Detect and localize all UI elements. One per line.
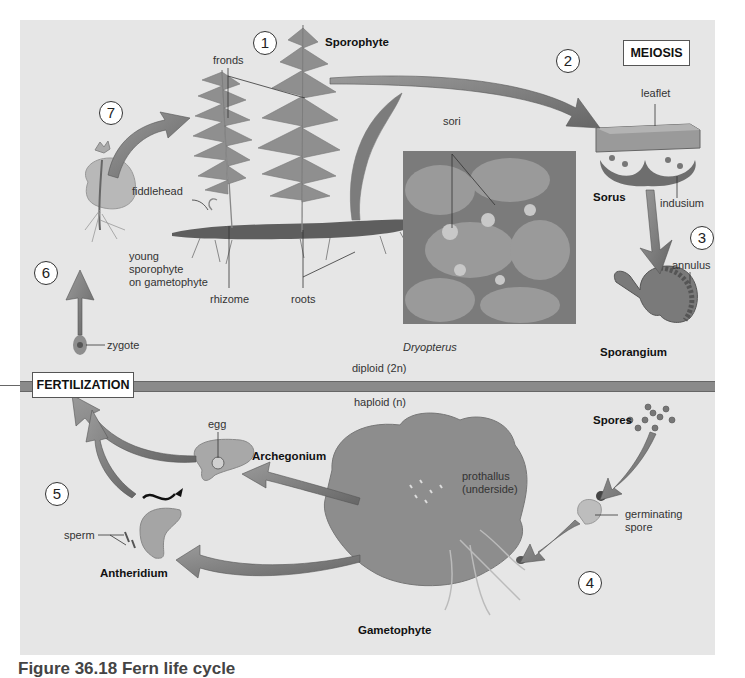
- sporophyte-title: Sporophyte: [325, 36, 389, 49]
- rhizome-illustration: [172, 219, 420, 264]
- zygote-label: zygote: [107, 339, 139, 352]
- sporangium-illustration: [614, 266, 697, 322]
- young-sporophyte-illustration: [85, 141, 136, 242]
- figure-caption: Figure 36.18 Fern life cycle: [18, 660, 235, 677]
- step-7-marker: 7: [99, 101, 123, 125]
- fiddlehead-label: fiddlehead: [132, 185, 183, 198]
- fertilization-box: FERTILIZATION: [32, 372, 134, 398]
- annulus-label: annulus: [672, 259, 711, 272]
- step-3-marker: 3: [690, 226, 714, 250]
- ploidy-divider-edge: [0, 385, 20, 386]
- gametophyte-title: Gametophyte: [358, 624, 432, 637]
- egg-label: egg: [208, 418, 226, 431]
- leaflet-label: leaflet: [641, 87, 670, 100]
- antheridium-illustration: [125, 488, 183, 558]
- spores-illustration: [627, 404, 675, 431]
- haploid-label: haploid (n): [354, 396, 406, 409]
- sorus-title: Sorus: [593, 191, 626, 204]
- step-5-marker: 5: [45, 482, 69, 506]
- dryopterus-label: Dryopterus: [403, 341, 457, 354]
- step-4-marker: 4: [578, 571, 602, 595]
- step-6-marker: 6: [34, 261, 58, 285]
- germinating-spore-label: germinating spore: [625, 508, 682, 534]
- indusium-label: indusium: [660, 197, 704, 210]
- rhizome-label: rhizome: [210, 293, 249, 306]
- prothallus-label: prothallus (underside): [462, 470, 518, 496]
- sporangium-title: Sporangium: [600, 346, 667, 359]
- step-1-marker: 1: [253, 31, 277, 55]
- meiosis-box: MEIOSIS: [623, 40, 690, 66]
- antheridium-title: Antheridium: [100, 567, 168, 580]
- fronds-label: fronds: [213, 54, 244, 67]
- prothallus-illustration: [324, 413, 527, 615]
- young-sporophyte-label: young sporophyte on gametophyte: [129, 250, 208, 289]
- archegonium-title: Archegonium: [252, 450, 326, 463]
- sperm-label: sperm: [64, 529, 95, 542]
- diploid-label: diploid (2n): [352, 362, 406, 375]
- roots-label: roots: [291, 293, 315, 306]
- sorus-illustration: [596, 124, 700, 186]
- spores-label: Spores: [593, 414, 632, 427]
- step-2-marker: 2: [556, 49, 580, 73]
- sori-label: sori: [443, 115, 461, 128]
